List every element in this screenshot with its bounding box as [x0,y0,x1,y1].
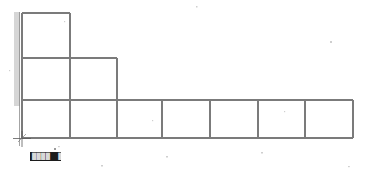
status-badge-segment-left: ████ [32,152,50,161]
status-badge-segment-mid: ██ [58,152,61,161]
chip-anchor-tick [54,148,56,150]
frame-members [22,13,353,138]
frame-diagram [0,0,365,174]
scan-artifacts [9,6,350,167]
drawing-canvas[interactable]: ████ ██ ██ [0,0,365,174]
origin-cross-marker [13,131,31,147]
status-badge[interactable]: ████ ██ ██ [30,152,61,161]
